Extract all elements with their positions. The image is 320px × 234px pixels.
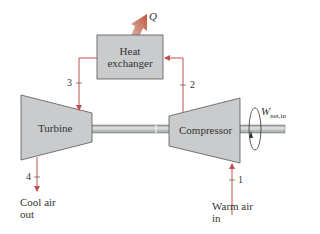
work-input-label: Wnet,in: [261, 105, 286, 122]
outlet-label-line2: out: [20, 208, 56, 220]
inlet-label: Warm air in: [212, 200, 253, 224]
heat-exchanger-label-line1: Heat: [97, 45, 163, 57]
flow-line-3: [79, 58, 97, 110]
inlet-label-line2: in: [212, 212, 253, 224]
compressor-label: Compressor: [179, 124, 232, 136]
heat-output-label: Q: [149, 10, 157, 22]
heat-exchanger-label-line2: exchanger: [97, 57, 163, 69]
outlet-label: Cool air out: [20, 196, 56, 220]
work-subscript: net,in: [270, 112, 286, 120]
outlet-label-line1: Cool air: [20, 196, 56, 208]
state-1-label: 1: [238, 174, 243, 186]
heat-rejection-arrow: [131, 14, 147, 37]
heat-exchanger-label: Heat exchanger: [97, 45, 163, 69]
work-symbol: W: [261, 105, 270, 117]
inlet-label-line1: Warm air: [212, 200, 253, 212]
state-3-label: 3: [67, 77, 72, 89]
shaft-middle: [91, 125, 170, 133]
state-2-label: 2: [190, 79, 195, 91]
state-4-label: 4: [26, 171, 31, 183]
shaft-right: [240, 125, 285, 133]
turbine-label: Turbine: [38, 122, 72, 134]
